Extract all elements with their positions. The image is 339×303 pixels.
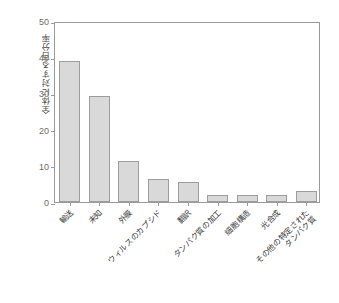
y-tick-label: 20 xyxy=(39,126,49,136)
bar xyxy=(59,61,80,202)
y-tick-mark xyxy=(51,204,55,205)
x-tick-mark xyxy=(188,202,189,206)
plot-area: 全体に対する百分率 01020304050 xyxy=(54,22,320,203)
bar xyxy=(178,182,199,202)
x-axis-label-line: 輸送 xyxy=(57,208,75,226)
x-axis-label-line: 細胞構造 xyxy=(223,208,252,237)
x-tick-mark xyxy=(129,202,130,206)
x-axis-labels: 輸送未知外膜ウィルスのカプシド翻訳タンパク質の加工細胞構造光合成その他の特定され… xyxy=(54,208,320,303)
x-tick-mark xyxy=(277,202,278,206)
x-tick-mark xyxy=(218,202,219,206)
x-tick-mark xyxy=(70,202,71,206)
x-axis-label: 輸送 xyxy=(0,208,75,303)
x-tick-mark xyxy=(158,202,159,206)
x-tick-mark xyxy=(306,202,307,206)
y-tick-label: 40 xyxy=(39,53,49,63)
x-axis-label-line: 外膜 xyxy=(117,208,135,226)
bar xyxy=(118,161,139,202)
x-axis-label-line: 光合成 xyxy=(259,208,282,231)
x-axis-label-line: 未知 xyxy=(87,208,105,226)
bar-chart-figure: 全体に対する百分率 01020304050 輸送未知外膜ウィルスのカプシド翻訳タ… xyxy=(0,0,339,303)
x-axis-label-line: 翻訳 xyxy=(176,208,194,226)
y-tick-label: 0 xyxy=(44,198,49,208)
x-axis-label-line: ウィルスのカプシド xyxy=(107,208,164,265)
y-tick-label: 30 xyxy=(39,89,49,99)
bar xyxy=(89,96,110,202)
bar xyxy=(148,179,169,202)
x-axis-label-line: その他の特定された xyxy=(254,208,311,265)
x-tick-mark xyxy=(247,202,248,206)
bars-layer xyxy=(55,23,319,202)
x-tick-mark xyxy=(99,202,100,206)
bar xyxy=(296,191,317,202)
y-tick-label: 50 xyxy=(39,17,49,27)
y-tick-label: 10 xyxy=(39,162,49,172)
